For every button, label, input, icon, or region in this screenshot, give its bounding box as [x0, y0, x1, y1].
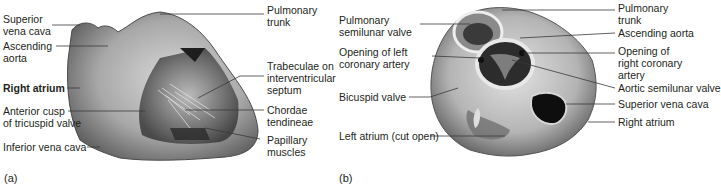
label-line: aorta: [3, 52, 52, 64]
label-opening-left-coronary: Opening of left coronary artery: [339, 46, 410, 70]
label-line: trunk: [618, 14, 668, 26]
panel-tag-a: (a): [4, 172, 17, 184]
label-pulmonary-trunk: Pulmonary trunk: [267, 4, 317, 28]
label-line: septum: [267, 84, 336, 96]
label-pulmonary-semilunar-valve: Pulmonary semilunar valve: [339, 14, 412, 38]
label-line: Opening of left: [339, 46, 410, 58]
label-line: Pulmonary: [618, 2, 668, 14]
label-line: trunk: [267, 16, 317, 28]
label-line: Pulmonary: [339, 14, 412, 26]
panel-tag-b: (b): [339, 172, 352, 184]
label-line: of tricuspid valve: [3, 117, 81, 129]
label-inferior-vena-cava: Inferior vena cava: [3, 141, 86, 153]
label-line: Papillary: [267, 134, 307, 146]
label-ascending-aorta: Ascending aorta: [3, 40, 52, 64]
label-trabeculae: Trabeculae on interventricular septum: [267, 60, 336, 96]
label-bicuspid-valve: Bicuspid valve: [339, 91, 406, 103]
label-line: coronary artery: [339, 58, 410, 70]
label-chordae-tendineae: Chordae tendineae: [267, 104, 313, 128]
label-line: Ascending: [3, 40, 52, 52]
label-right-atrium: Right atrium: [3, 82, 65, 94]
label-line: vena cava: [3, 25, 51, 37]
label-opening-right-coronary: Opening of right coronary artery: [618, 45, 682, 81]
label-left-atrium: Left atrium (cut open): [339, 130, 439, 142]
panel-a: Superior vena cava Ascending aorta Right…: [0, 0, 330, 190]
label-ascending-aorta-b: Ascending aorta: [618, 27, 694, 39]
label-line: tendineae: [267, 116, 313, 128]
label-line: Superior vena cava: [618, 98, 708, 110]
label-pulmonary-trunk-b: Pulmonary trunk: [618, 2, 668, 26]
label-right-atrium-b: Right atrium: [618, 116, 675, 128]
label-line: artery: [618, 69, 682, 81]
label-line: Right atrium: [3, 82, 65, 94]
label-line: Aortic semilunar valve: [618, 82, 721, 94]
label-line: Left atrium (cut open): [339, 130, 439, 142]
label-line: Anterior cusp: [3, 105, 81, 117]
label-line: right coronary: [618, 57, 682, 69]
label-line: Inferior vena cava: [3, 141, 86, 153]
label-line: Opening of: [618, 45, 682, 57]
label-line: Trabeculae on: [267, 60, 336, 72]
label-line: Pulmonary: [267, 4, 317, 16]
label-line: Superior: [3, 13, 51, 25]
label-line: Ascending aorta: [618, 27, 694, 39]
label-line: semilunar valve: [339, 26, 412, 38]
panel-b: Pulmonary semilunar valve Opening of lef…: [330, 0, 715, 190]
label-line: interventricular: [267, 72, 336, 84]
label-aortic-semilunar-valve: Aortic semilunar valve: [618, 82, 721, 94]
label-papillary-muscles: Papillary muscles: [267, 134, 307, 158]
label-superior-vena-cava: Superior vena cava: [3, 13, 51, 37]
label-line: Bicuspid valve: [339, 91, 406, 103]
label-line: muscles: [267, 146, 307, 158]
label-line: Right atrium: [618, 116, 675, 128]
label-anterior-cusp-tricuspid: Anterior cusp of tricuspid valve: [3, 105, 81, 129]
label-line: Chordae: [267, 104, 313, 116]
label-superior-vena-cava-b: Superior vena cava: [618, 98, 708, 110]
